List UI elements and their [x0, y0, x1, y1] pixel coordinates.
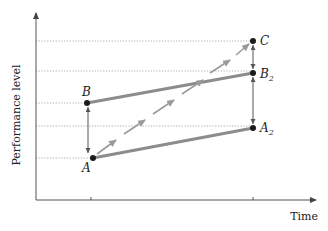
performance-diagram: A B C B2 A2 Performance level Time	[0, 0, 328, 231]
label-c: C	[260, 34, 269, 48]
x-axis-label: Time	[290, 210, 318, 223]
label-a: A	[81, 161, 91, 175]
label-b: B	[81, 85, 91, 99]
point-c	[250, 38, 256, 44]
point-b	[84, 100, 90, 106]
gridlines	[36, 41, 253, 158]
line-a-to-a2	[93, 128, 253, 158]
point-b2	[250, 70, 256, 76]
dashed-arrow-a-to-c	[97, 44, 249, 154]
label-b2: B2	[259, 67, 274, 83]
label-a2: A2	[259, 121, 274, 137]
y-axis-label: Performance level	[10, 64, 23, 166]
point-a2	[250, 125, 256, 131]
line-b-to-b2	[87, 73, 253, 103]
point-a	[90, 155, 96, 161]
